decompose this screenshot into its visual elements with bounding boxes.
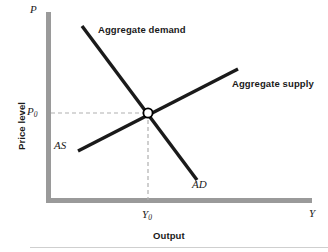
y-axis — [46, 12, 51, 203]
x-axis-title: Output — [153, 230, 185, 241]
aggregate-supply-demand-diagram: P Price level P0 Aggregate demand Aggreg… — [0, 0, 328, 252]
equilibrium-price-subscript: 0 — [34, 110, 38, 119]
diagram-canvas — [0, 0, 328, 252]
aggregate-demand-short-label: AD — [192, 178, 207, 190]
aggregate-supply-short-label: AS — [54, 139, 66, 151]
x-axis — [46, 198, 312, 203]
y-axis-title: Price level — [16, 102, 27, 150]
equilibrium-point-marker — [143, 108, 152, 117]
aggregate-demand-label: Aggregate demand — [98, 24, 186, 35]
aggregate-supply-curve — [78, 69, 238, 151]
y-axis-symbol: P — [30, 3, 37, 15]
equilibrium-price-label: P0 — [27, 105, 37, 117]
aggregate-demand-curve — [82, 26, 197, 180]
x-axis-symbol: Y — [309, 207, 315, 219]
equilibrium-output-label: Y0 — [142, 208, 152, 220]
aggregate-supply-label: Aggregate supply — [232, 78, 314, 89]
equilibrium-output-subscript: 0 — [148, 213, 152, 222]
